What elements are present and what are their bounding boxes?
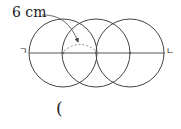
left-endpoint-label: ㄱ	[19, 47, 27, 56]
center-point-1	[62, 52, 65, 55]
radius-dashed-arc	[64, 45, 96, 52]
right-endpoint-label: ㄴ	[166, 47, 174, 56]
answer-paren: (	[56, 100, 63, 117]
length-label: 6 cm	[12, 5, 46, 19]
center-point-3	[129, 52, 132, 55]
center-point-2	[95, 52, 98, 55]
